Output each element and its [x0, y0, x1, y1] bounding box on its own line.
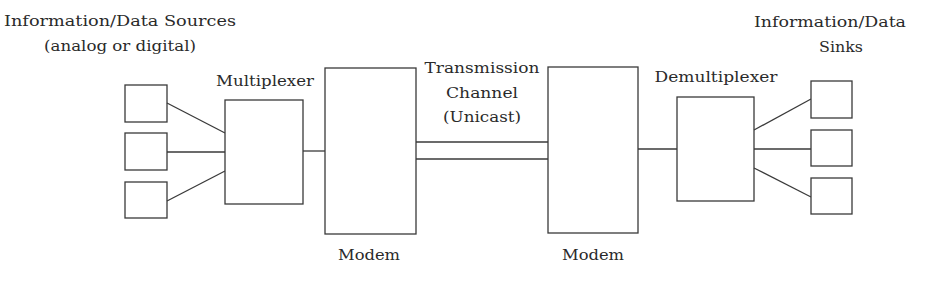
- demultiplexer-label: Demultiplexer: [655, 68, 779, 86]
- modem-left-box: [325, 68, 416, 234]
- source-box-2: [125, 133, 167, 170]
- channel-label-line1: Transmission: [425, 59, 540, 77]
- channel-label-line2: Channel: [446, 84, 518, 102]
- sink-box-1: [811, 81, 852, 118]
- source-box-3: [125, 182, 167, 218]
- unicast-multiplexing-diagram: Information/Data Sources (analog or digi…: [0, 0, 950, 295]
- modem-left-label: Modem: [338, 246, 400, 264]
- demux-to-sink-3-wire: [754, 168, 811, 197]
- multiplexer-label: Multiplexer: [216, 72, 315, 90]
- demultiplexer-box: [677, 97, 754, 201]
- sink-box-3: [811, 178, 852, 214]
- multiplexer-box: [225, 100, 303, 204]
- source-box-1: [125, 85, 167, 122]
- source-1-to-mux-wire: [167, 103, 225, 133]
- sources-sublabel: (analog or digital): [44, 37, 196, 55]
- sources-label: Information/Data Sources: [4, 12, 236, 30]
- demux-to-sink-1-wire: [754, 99, 811, 130]
- sinks-sublabel: Sinks: [819, 38, 863, 56]
- channel-label-line3: (Unicast): [443, 108, 521, 126]
- modem-right-box: [548, 67, 638, 233]
- modem-right-label: Modem: [562, 246, 624, 264]
- source-3-to-mux-wire: [167, 171, 225, 201]
- sinks-label: Information/Data: [754, 13, 906, 31]
- sink-box-2: [811, 130, 852, 166]
